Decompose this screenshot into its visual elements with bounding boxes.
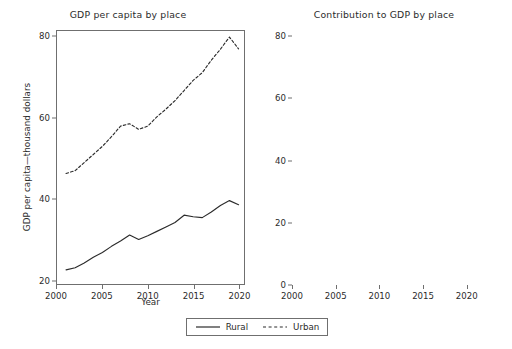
x-tick-mark: [148, 285, 149, 289]
y-tick-label: 80: [26, 32, 50, 41]
y-tick-mark: [288, 222, 292, 223]
plot-lines-left: [57, 31, 244, 284]
series-line-rural: [66, 201, 238, 270]
y-tick-label: 20: [26, 276, 50, 285]
x-tick-label: 2015: [403, 291, 443, 301]
y-tick-mark: [52, 199, 56, 200]
plot-area-left: [56, 30, 245, 285]
x-tick-mark: [336, 285, 337, 289]
x-tick-mark: [292, 285, 293, 289]
legend-item-urban: Urban: [262, 322, 319, 332]
y-tick-mark: [52, 36, 56, 37]
y-tick-mark: [52, 117, 56, 118]
y-tick-mark: [288, 36, 292, 37]
legend-label-rural: Rural: [226, 322, 248, 332]
legend: Rural Urban: [186, 318, 328, 336]
y-tick-mark: [52, 280, 56, 281]
legend-label-urban: Urban: [293, 322, 319, 332]
x-tick-label: 2010: [359, 291, 399, 301]
x-tick-mark: [194, 285, 195, 289]
x-tick-mark: [56, 285, 57, 289]
x-axis-label-left: Year: [56, 297, 245, 307]
x-tick-mark: [423, 285, 424, 289]
legend-swatch-dashed: [262, 323, 288, 331]
y-tick-label: 80: [262, 32, 286, 41]
y-axis-label-left: GDP per capita—thousand dollars: [22, 77, 32, 237]
panel-right-title: Contribution to GDP by place: [264, 9, 504, 21]
y-tick-label: 40: [262, 156, 286, 165]
x-tick-label: 2020: [447, 291, 487, 301]
series-line-urban: [66, 37, 238, 173]
panel-left-title: GDP per capita by place: [0, 9, 256, 21]
x-tick-mark: [379, 285, 380, 289]
x-tick-label: 2000: [272, 291, 312, 301]
y-tick-label: 0: [262, 281, 286, 290]
panel-contribution-to-gdp: Contribution to GDP by place 020406080 2…: [256, 0, 512, 310]
legend-swatch-solid: [195, 323, 221, 331]
y-tick-mark: [288, 98, 292, 99]
legend-item-rural: Rural: [195, 322, 248, 332]
y-tick-label: 60: [262, 94, 286, 103]
figure-canvas: GDP per capita by place 20406080 2000200…: [0, 0, 512, 349]
x-tick-mark: [467, 285, 468, 289]
y-tick-mark: [288, 160, 292, 161]
x-tick-mark: [102, 285, 103, 289]
y-tick-label: 20: [262, 218, 286, 227]
panel-gdp-per-capita: GDP per capita by place 20406080 2000200…: [0, 0, 256, 310]
x-tick-label: 2005: [316, 291, 356, 301]
x-tick-mark: [239, 285, 240, 289]
